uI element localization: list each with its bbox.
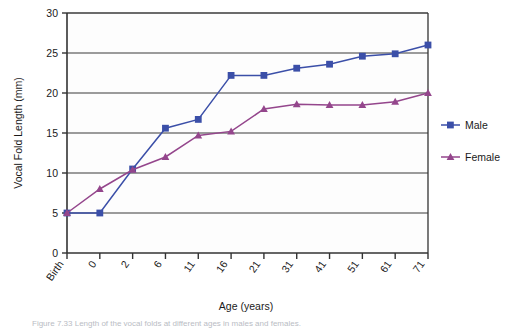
data-point-male [392,50,399,57]
x-axis-ticks: Birth0261116213141516171 [43,253,428,283]
data-point-male [162,125,169,132]
data-point-male [228,72,235,79]
x-tick-label: 16 [213,258,230,275]
data-point-male [293,65,300,72]
data-point-male [261,72,268,79]
legend-label-female: Female [465,151,500,163]
data-point-male [359,53,366,60]
x-tick-label: Birth [43,258,65,283]
x-tick-label: 21 [246,258,263,275]
legend-marker-male [447,122,454,129]
x-tick-label: 31 [279,258,296,275]
legend-label-male: Male [465,119,488,131]
x-tick-label: 51 [344,258,361,275]
y-tick-label: 30 [46,7,58,19]
y-tick-label: 5 [52,207,58,219]
y-tick-label: 0 [52,247,58,259]
vocal-fold-length-line-chart: 051015202530 Birth0261116213141516171 Vo… [0,0,516,328]
figure-caption: Figure 7.33 Length of the vocal folds at… [32,319,301,328]
y-tick-label: 15 [46,127,58,139]
figure-container: 051015202530 Birth0261116213141516171 Vo… [0,0,516,328]
x-axis-title: Age (years) [219,300,273,312]
y-tick-label: 10 [46,167,58,179]
x-tick-label: 71 [410,258,427,275]
x-tick-label: 0 [85,258,98,270]
x-tick-label: 61 [377,258,394,275]
x-tick-label: 6 [151,258,164,270]
y-tick-label: 20 [46,87,58,99]
data-point-male [425,42,432,49]
chart-legend: MaleFemale [441,119,500,163]
data-point-male [326,61,333,68]
x-tick-label: 2 [118,258,131,270]
x-tick-label: 11 [181,258,197,274]
y-axis-ticks: 051015202530 [46,7,67,259]
x-tick-label: 41 [312,258,329,275]
data-point-male [195,116,202,123]
y-axis-title: Vocal Fold Length (mm) [12,77,24,188]
y-tick-label: 25 [46,47,58,59]
data-point-male [96,210,103,217]
